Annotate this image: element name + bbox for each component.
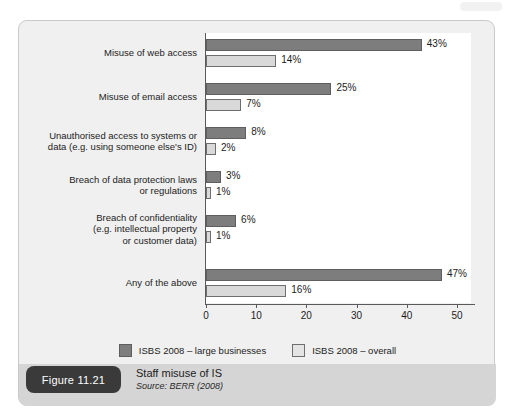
bar-overall[interactable] — [206, 55, 276, 67]
bar-row: 6% — [206, 215, 472, 227]
x-axis-tick — [206, 304, 207, 308]
category-label: Unauthorised access to systems or data (… — [27, 130, 197, 153]
bar-row: 2% — [206, 143, 472, 155]
bar-large-businesses[interactable] — [206, 127, 246, 139]
legend-label: ISBS 2008 – large businesses — [139, 345, 266, 356]
bar-chart: Misuse of web access43%14%Misuse of emai… — [19, 21, 496, 339]
legend-item[interactable]: ISBS 2008 – large businesses — [119, 344, 266, 357]
x-axis-tick-label: 40 — [401, 310, 412, 321]
x-axis-tick-label: 0 — [203, 310, 209, 321]
bar-overall[interactable] — [206, 187, 211, 199]
x-axis-tick — [457, 304, 458, 308]
bar-large-businesses[interactable] — [206, 83, 331, 95]
bar-value-label: 2% — [221, 142, 235, 153]
category-label: Misuse of web access — [27, 47, 197, 59]
y-axis-line — [205, 33, 206, 305]
bar-overall[interactable] — [206, 231, 211, 243]
bar-overall[interactable] — [206, 143, 216, 155]
legend-label: ISBS 2008 – overall — [312, 345, 396, 356]
bar-row: 47% — [206, 269, 472, 281]
figure-number-badge: Figure 11.21 — [26, 366, 121, 393]
bar-value-label: 3% — [226, 170, 240, 181]
bar-value-label: 25% — [336, 82, 356, 93]
bar-value-label: 8% — [251, 126, 265, 137]
bar-row: 7% — [206, 99, 472, 111]
bar-overall[interactable] — [206, 99, 241, 111]
legend-item[interactable]: ISBS 2008 – overall — [292, 344, 396, 357]
x-axis-tick — [306, 304, 307, 308]
x-axis-tick — [407, 304, 408, 308]
bar-large-businesses[interactable] — [206, 39, 422, 51]
bar-value-label: 1% — [216, 230, 230, 241]
bar-row: 1% — [206, 187, 472, 199]
bar-large-businesses[interactable] — [206, 269, 442, 281]
figure-title: Staff misuse of IS — [136, 366, 223, 380]
bar-row: 16% — [206, 285, 472, 297]
bar-row: 43% — [206, 39, 472, 51]
bar-value-label: 7% — [246, 98, 260, 109]
bar-row: 1% — [206, 231, 472, 243]
x-axis-tick-label: 50 — [451, 310, 462, 321]
figure-card: Misuse of web access43%14%Misuse of emai… — [18, 20, 495, 406]
category-label: Breach of data protection laws or regula… — [27, 174, 197, 197]
bar-row: 3% — [206, 171, 472, 183]
bar-value-label: 47% — [447, 268, 467, 279]
bar-value-label: 43% — [427, 38, 447, 49]
figure-number-label: Figure 11.21 — [42, 374, 105, 386]
bar-row: 8% — [206, 127, 472, 139]
bar-large-businesses[interactable] — [206, 215, 236, 227]
bar-row: 14% — [206, 55, 472, 67]
plot-area — [205, 33, 471, 303]
figure-source: Source: BERR (2008) — [136, 380, 223, 392]
category-label: Misuse of email access — [27, 91, 197, 103]
figure-caption-bar: Figure 11.21 Staff misuse of IS Source: … — [19, 364, 496, 406]
x-axis-tick-label: 20 — [301, 310, 312, 321]
legend-swatch-large — [119, 344, 132, 357]
bar-overall[interactable] — [206, 285, 286, 297]
legend-swatch-overall — [292, 344, 305, 357]
x-axis-tick-label: 30 — [351, 310, 362, 321]
x-axis-tick — [256, 304, 257, 308]
chart-legend: ISBS 2008 – large businessesISBS 2008 – … — [19, 339, 496, 361]
bar-value-label: 16% — [291, 284, 311, 295]
bar-large-businesses[interactable] — [206, 171, 221, 183]
bar-row: 25% — [206, 83, 472, 95]
category-label: Breach of confidentiality (e.g. intellec… — [27, 212, 197, 247]
x-axis-tick-label: 10 — [251, 310, 262, 321]
x-axis-tick — [357, 304, 358, 308]
category-label: Any of the above — [27, 277, 197, 289]
bar-value-label: 1% — [216, 186, 230, 197]
page-scan-artifact — [460, 2, 502, 11]
caption-text-block: Staff misuse of IS Source: BERR (2008) — [136, 366, 223, 392]
bar-value-label: 6% — [241, 214, 255, 225]
x-axis-line — [205, 304, 475, 305]
bar-value-label: 14% — [281, 54, 301, 65]
